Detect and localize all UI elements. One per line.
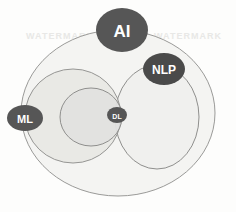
set-badge-ai-label: AI <box>114 22 131 41</box>
set-badge-nlp-label: NLP <box>152 63 176 77</box>
set-badge-ml[interactable]: ML <box>7 105 43 131</box>
set-badge-dl-label: DL <box>112 113 122 120</box>
euler-diagram: WATERMARK WATERMARK WATERMARK WATERMARK … <box>0 0 236 212</box>
set-badge-ml-label: ML <box>17 113 33 125</box>
set-badge-nlp[interactable]: NLP <box>143 53 185 85</box>
diagram-canvas: WATERMARK WATERMARK WATERMARK WATERMARK … <box>0 0 236 212</box>
set-badge-dl[interactable]: DL <box>107 107 127 123</box>
set-badge-ai[interactable]: AI <box>96 8 148 52</box>
